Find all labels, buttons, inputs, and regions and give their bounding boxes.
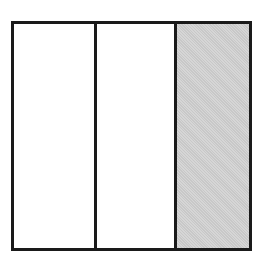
fraction-square bbox=[11, 21, 252, 251]
part-2-unshaded bbox=[94, 24, 174, 248]
part-3-shaded bbox=[174, 24, 249, 248]
part-1-unshaded bbox=[14, 24, 94, 248]
